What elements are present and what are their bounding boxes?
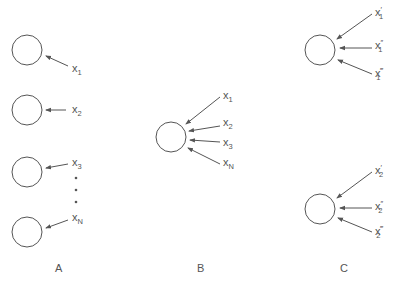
neuron-a2: [12, 95, 42, 125]
arrow-b4: [188, 148, 220, 164]
arrow-b1: [186, 97, 220, 124]
arrow-c1a: [337, 14, 372, 39]
label-a-xn: xN: [72, 211, 83, 226]
arrow-b3: [190, 140, 220, 142]
panel-c: [305, 14, 372, 232]
neuron-a3: [12, 157, 42, 187]
label-b-x2: x2: [223, 116, 233, 131]
neuron-c2: [305, 194, 335, 224]
label-c-x2-dprime: x″2: [375, 199, 384, 215]
neuron-input-diagram: x1 x2 x3 xN A x1 x2 x3 xN B x′1 x″1 x‴1 …: [0, 0, 396, 283]
arrow-b2: [189, 126, 220, 131]
ellipsis-dots: [75, 177, 78, 204]
panel-b: [156, 97, 220, 164]
label-a-x1: x1: [72, 62, 82, 77]
label-b-x3: x3: [223, 136, 233, 151]
label-c-x2-tprime: x‴2: [375, 224, 384, 240]
label-b-xn: xN: [223, 156, 234, 171]
label-c-x1-dprime: x″1: [375, 38, 384, 54]
neuron-a1: [12, 35, 42, 65]
label-c-x1-tprime: x‴1: [375, 66, 384, 82]
label-b-x1: x1: [223, 89, 233, 104]
label-a-x2: x2: [72, 103, 82, 118]
neuron-a4: [12, 217, 42, 247]
label-c-x1-prime: x′1: [375, 5, 383, 21]
neuron-c1: [305, 35, 335, 65]
arrow-a3: [46, 164, 68, 168]
caption-b: B: [197, 262, 204, 274]
neuron-b: [156, 122, 186, 152]
panel-a: [12, 35, 68, 247]
label-c-x2-prime: x′2: [375, 163, 383, 179]
label-a-x3: x3: [72, 156, 82, 171]
caption-a: A: [55, 262, 63, 274]
arrow-c2a: [337, 172, 372, 198]
caption-c: C: [340, 262, 348, 274]
arrow-a4: [46, 220, 68, 228]
arrow-a1: [46, 56, 68, 66]
arrow-c2c: [338, 218, 372, 232]
arrow-c1c: [338, 60, 372, 74]
